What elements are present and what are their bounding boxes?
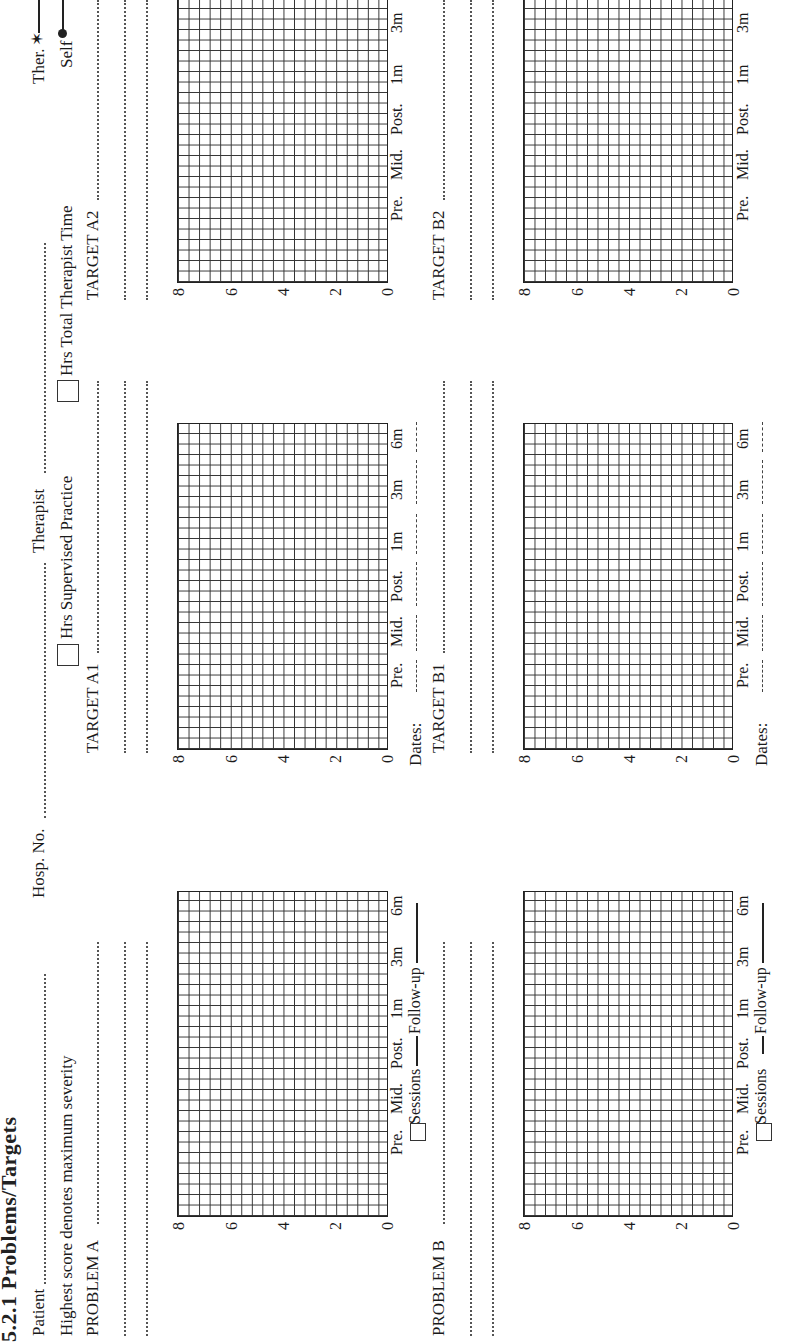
target-a2-xtick-3m: 3m <box>388 13 406 33</box>
target-b1-date-pre[interactable] <box>762 660 763 692</box>
target-a2-field-line-3[interactable] <box>146 0 148 300</box>
problem-b-sessions-box[interactable] <box>756 1123 772 1141</box>
target-b2-grid[interactable] <box>523 0 733 283</box>
problem-b-label: PROBLEM B <box>430 1240 448 1336</box>
legend-self-line <box>62 0 64 30</box>
problem-a-xtick-post: Post. <box>388 1037 406 1069</box>
target-b1-date-6m[interactable] <box>762 422 763 452</box>
problem-b-followup-label: Follow-up <box>752 967 770 1034</box>
target-a2-ytick-0: 0 <box>379 288 397 296</box>
target-a2-xtick-pre: Pre. <box>388 196 406 221</box>
problem-a-field-line-1[interactable] <box>97 942 99 1224</box>
problem-a-field-line-3[interactable] <box>146 942 148 1336</box>
target-a1-ytick-6: 6 <box>223 755 241 763</box>
problem-a-grid[interactable] <box>177 891 388 1217</box>
problem-a-xtick-pre: Pre. <box>388 1130 406 1155</box>
target-b1-xtick-6m: 6m <box>734 429 752 449</box>
target-a2-xtick-post: Post. <box>388 103 406 135</box>
target-b1-date-3m[interactable] <box>762 460 763 504</box>
target-a1-field-line-1[interactable] <box>97 381 99 653</box>
problem-a-followup-line-right <box>416 903 418 963</box>
target-b1-dates-label: Dates: <box>752 723 772 766</box>
section-title: 5.2.1 Problems/Targets <box>0 1117 22 1342</box>
target-b1-field-line-2[interactable] <box>470 381 472 753</box>
problem-a-xtick-6m: 6m <box>388 896 406 916</box>
problem-a-sessions-box[interactable] <box>410 1123 426 1141</box>
hosp-no-field[interactable] <box>44 563 46 818</box>
target-a2-field-line-1[interactable] <box>97 0 99 200</box>
target-b1-chart[interactable] <box>523 423 733 750</box>
target-b2-field-line-3[interactable] <box>492 0 494 300</box>
problem-a-ytick-2: 2 <box>327 1222 345 1230</box>
target-b1-ytick-8: 8 <box>516 755 534 763</box>
target-a1-xtick-mid: Mid. <box>388 616 406 647</box>
target-b1-xtick-3m: 3m <box>734 480 752 500</box>
problem-a-sessions-label: Sessions <box>406 1069 424 1124</box>
legend-ther-label: Ther. <box>30 49 48 84</box>
problem-b-ytick-6: 6 <box>569 1222 587 1230</box>
target-a1-date-pre[interactable] <box>416 660 417 692</box>
target-b1-label: TARGET B1 <box>430 664 448 753</box>
problem-b-ytick-2: 2 <box>673 1222 691 1230</box>
target-b1-xtick-post: Post. <box>734 570 752 602</box>
problem-b-field-line-3[interactable] <box>492 942 494 1336</box>
target-a1-xtick-1m: 1m <box>388 532 406 552</box>
target-a2-xtick-mid: Mid. <box>388 149 406 180</box>
problem-a-ytick-6: 6 <box>223 1222 241 1230</box>
target-a1-ytick-2: 2 <box>327 755 345 763</box>
target-a1-ytick-0: 0 <box>379 755 397 763</box>
problem-a-ytick-0: 0 <box>379 1222 397 1230</box>
target-b2-ytick-4: 4 <box>621 288 639 296</box>
target-b1-date-post[interactable] <box>762 562 763 606</box>
target-a1-dates-label: Dates: <box>406 723 426 766</box>
supervised-practice-label: Hrs Supervised Practice <box>58 476 76 639</box>
problem-a-followup-label: Follow-up <box>406 967 424 1034</box>
problem-a-sessions-arrow <box>416 1054 418 1066</box>
therapist-field[interactable] <box>44 243 46 473</box>
target-a2-xtick-1m: 1m <box>388 65 406 85</box>
target-a1-chart[interactable] <box>177 423 388 750</box>
target-b1-field-line-1[interactable] <box>443 381 445 653</box>
patient-field[interactable] <box>44 974 46 1284</box>
total-therapist-time-label: Hrs Total Therapist Time <box>58 205 76 376</box>
problem-a-label: PROBLEM A <box>84 1240 102 1336</box>
problem-a-chart[interactable] <box>177 891 388 1217</box>
problem-b-field-line-1[interactable] <box>443 942 445 1224</box>
target-a1-date-post[interactable] <box>416 562 417 606</box>
problem-a-field-line-2[interactable] <box>124 942 126 1336</box>
supervised-practice-hours-box[interactable] <box>57 644 79 666</box>
problem-b-chart[interactable] <box>523 891 733 1217</box>
target-a2-chart[interactable] <box>177 0 388 283</box>
target-a2-ytick-4: 4 <box>275 288 293 296</box>
target-a1-field-line-3[interactable] <box>146 381 148 753</box>
target-a1-ytick-8: 8 <box>170 755 188 763</box>
target-b2-xtick-post: Post. <box>734 103 752 135</box>
hosp-no-label: Hosp. No. <box>30 829 48 898</box>
target-b1-field-line-3[interactable] <box>492 381 494 753</box>
problem-b-ytick-8: 8 <box>516 1222 534 1230</box>
target-b2-xtick-pre: Pre. <box>734 196 752 221</box>
problem-b-grid[interactable] <box>523 891 733 1217</box>
legend-self-label: Self <box>58 41 76 68</box>
problem-b-field-line-2[interactable] <box>470 942 472 1336</box>
target-a1-grid[interactable] <box>177 423 388 750</box>
target-b2-chart[interactable] <box>523 0 733 283</box>
target-a1-field-line-2[interactable] <box>124 381 126 753</box>
problem-b-sessions-label: Sessions <box>752 1069 770 1124</box>
target-b2-field-line-1[interactable] <box>443 0 445 200</box>
target-b1-xtick-mid: Mid. <box>734 616 752 647</box>
target-a1-date-3m[interactable] <box>416 460 417 504</box>
target-a1-date-6m[interactable] <box>416 422 417 452</box>
target-a1-xtick-3m: 3m <box>388 480 406 500</box>
target-b1-date-mid[interactable] <box>762 615 763 651</box>
target-b2-xtick-3m: 3m <box>734 13 752 33</box>
target-a1-date-1m[interactable] <box>416 514 417 554</box>
target-b1-grid[interactable] <box>523 423 733 750</box>
target-b2-field-line-2[interactable] <box>470 0 472 300</box>
target-b2-ytick-8: 8 <box>516 288 534 296</box>
total-therapist-time-box[interactable] <box>57 380 79 402</box>
target-b1-date-1m[interactable] <box>762 514 763 554</box>
target-a2-field-line-2[interactable] <box>124 0 126 300</box>
target-a1-date-mid[interactable] <box>416 615 417 651</box>
target-a2-grid[interactable] <box>177 0 388 283</box>
